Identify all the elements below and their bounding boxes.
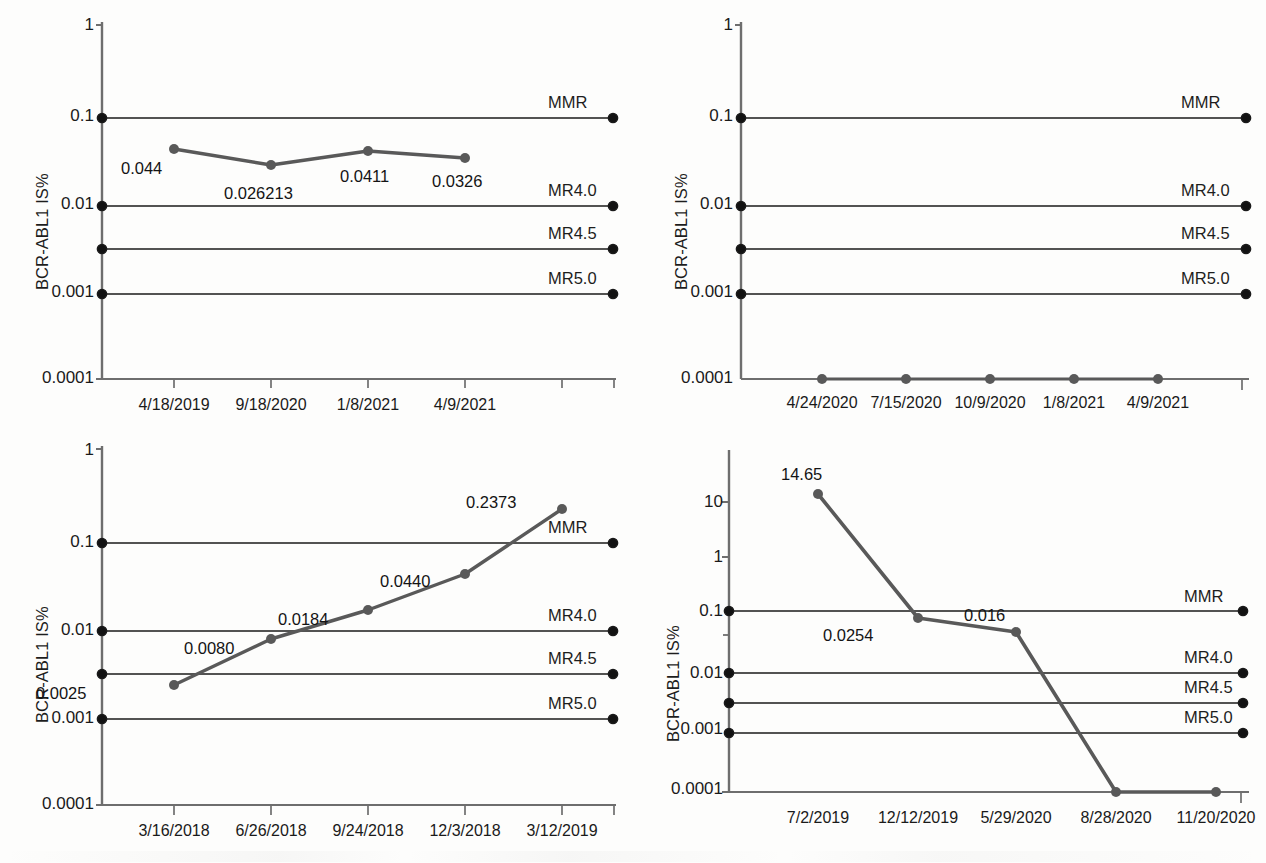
data-point-label: 0.0025 (36, 684, 86, 703)
plot-area (633, 432, 1266, 863)
series-line (174, 509, 562, 685)
reference-label-mr40: MR4.0 (548, 606, 597, 625)
y-tick-label: 0.001 (653, 282, 733, 302)
reference-label-mmr: MMR (1184, 587, 1223, 606)
reference-label-mr45: MR4.5 (1181, 224, 1230, 243)
y-axis-title: BCR-ABL1 IS% (33, 173, 52, 290)
x-tick-label: 1/8/2021 (312, 396, 424, 414)
chart-panel-top-right: BCR-ABL1 IS% 1 0.1 0.01 0.001 0.0001 MMR… (633, 0, 1266, 432)
data-point-label: 0.0440 (380, 572, 430, 591)
chart-panel-bottom-left: BCR-ABL1 IS% 1 0.1 0.01 0.001 0.0001 MM (0, 432, 633, 863)
y-tick-label: 0.0001 (4, 368, 94, 388)
x-tick-label: 4/9/2021 (409, 396, 521, 414)
y-tick-label: 0.001 (14, 282, 94, 302)
y-tick-label: 0.0001 (643, 368, 733, 388)
series-markers (813, 489, 1221, 797)
series-markers (169, 504, 567, 690)
series-line (818, 494, 1216, 792)
chart-panel-top-left: BCR-ABL1 IS% 1 0.1 0.01 0.001 0.0001 (0, 0, 633, 432)
y-axis-title: BCR-ABL1 IS% (672, 173, 691, 290)
reference-label-mmr: MMR (548, 518, 587, 537)
y-tick-label: 0.1 (643, 601, 723, 621)
data-point-label: 0.0326 (432, 172, 482, 191)
y-tick-label: 0.001 (14, 708, 94, 728)
plot-area (0, 432, 633, 863)
y-tick-label: 1 (643, 547, 723, 567)
data-point-label: 0.0184 (278, 610, 328, 629)
y-tick-label: 10 (643, 492, 723, 512)
x-tick-label: 11/20/2020 (1152, 809, 1266, 827)
y-tick-label: 0.1 (653, 106, 733, 126)
reference-label-mr45: MR4.5 (548, 649, 597, 668)
reference-label-mmr: MMR (1181, 93, 1220, 112)
series-line (818, 494, 918, 863)
y-tick-label: 0.001 (635, 719, 723, 739)
reference-label-mr50: MR5.0 (548, 269, 597, 288)
reference-label-mr50: MR5.0 (1184, 708, 1233, 727)
reference-label-mr50: MR5.0 (1181, 269, 1230, 288)
y-tick-label: 0.01 (14, 194, 94, 214)
data-point-label: 0.2373 (466, 493, 516, 512)
y-tick-label: 0.0001 (4, 794, 94, 814)
x-tick-label: 4/9/2021 (1102, 394, 1214, 412)
y-tick-label: 0.1 (14, 532, 94, 552)
data-point-label: 0.044 (121, 159, 162, 178)
y-tick-label: 1 (653, 15, 733, 35)
y-tick-label: 0.01 (643, 663, 723, 683)
reference-label-mr45: MR4.5 (548, 224, 597, 243)
y-tick-label: 0.1 (14, 106, 94, 126)
data-point-label: 0.016 (964, 606, 1005, 625)
series-line (174, 149, 465, 165)
reference-label-mr45: MR4.5 (1184, 678, 1233, 697)
reference-label-mmr: MMR (548, 93, 587, 112)
reference-label-mr50: MR5.0 (548, 694, 597, 713)
reference-label-mr40: MR4.0 (1181, 181, 1230, 200)
figure-page: { "figure": { "ylabel": "BCR-ABL1 IS%", … (0, 0, 1266, 863)
y-tick-label: 1 (14, 440, 94, 460)
plot-area (0, 0, 633, 432)
reference-label-mr40: MR4.0 (548, 181, 597, 200)
y-tick-label: 0.01 (14, 620, 94, 640)
data-point-label: 14.65 (781, 465, 822, 484)
data-point-label: 0.0080 (184, 639, 234, 658)
chart-panel-bottom-right: BCR-ABL1 IS% 10 1 0.1 0.01 0.001 0.0001 (633, 432, 1266, 863)
data-point-label: 0.026213 (224, 184, 293, 203)
data-point-label: 0.0411 (340, 167, 389, 186)
data-point-label: 0.0254 (823, 626, 873, 645)
y-tick-label: 0.0001 (627, 779, 723, 799)
y-tick-label: 0.01 (653, 194, 733, 214)
y-tick-label: 1 (14, 15, 94, 35)
reference-label-mr40: MR4.0 (1184, 648, 1233, 667)
x-tick-label: 3/12/2019 (504, 822, 620, 840)
